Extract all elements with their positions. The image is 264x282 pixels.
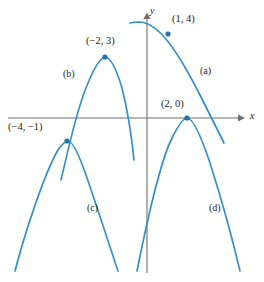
curve-label-d: (d): [209, 203, 221, 213]
vertex-dot-1-4: [165, 31, 170, 36]
x-axis-arrowhead: [238, 114, 245, 121]
point-label-minus4-minus1: (−4, −1): [8, 122, 43, 133]
point-label-2-0: (2, 0): [161, 99, 184, 110]
point-label-1-4: (1, 4): [172, 14, 195, 25]
curve-a-path: [130, 22, 224, 143]
curve-label-c: (c): [87, 203, 98, 213]
curves-group: [15, 22, 240, 271]
vertex-dot-2-0: [184, 115, 189, 120]
curve-label-a: (a): [200, 66, 211, 76]
y-axis-label: y: [150, 6, 154, 16]
parabolas-figure: x y (1, 4) (−2, 3) (−4, −1) (2, 0) (a) (…: [0, 0, 264, 282]
vertex-dots-group: [64, 31, 189, 143]
figure-canvas: [0, 0, 264, 282]
curve-label-b: (b): [63, 69, 75, 79]
point-label-minus2-3: (−2, 3): [86, 36, 115, 47]
curve-d-path: [137, 118, 240, 271]
curve-c-path: [15, 141, 118, 271]
vertex-dot-minus2-3: [102, 54, 107, 59]
x-axis-label: x: [250, 111, 254, 121]
vertex-dot-minus4-minus1: [64, 138, 69, 143]
axes-group: [8, 13, 245, 274]
